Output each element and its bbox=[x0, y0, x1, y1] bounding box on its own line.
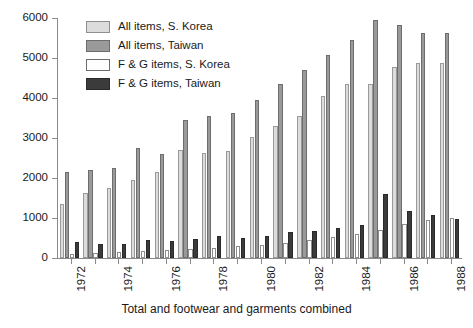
bar bbox=[136, 148, 140, 258]
bar bbox=[455, 219, 459, 258]
y-axis-tick-label: 5000 bbox=[0, 52, 48, 64]
bar bbox=[368, 84, 372, 258]
legend-label: All items, S. Korea bbox=[118, 21, 213, 33]
legend-item: F & G items, Taiwan bbox=[86, 76, 230, 92]
bar bbox=[88, 170, 92, 258]
bar bbox=[112, 168, 116, 258]
x-axis-tick-label: 1972 bbox=[76, 266, 88, 292]
bar bbox=[336, 228, 340, 258]
x-axis-tick bbox=[380, 258, 381, 264]
x-axis-title: Total and footwear and garments combined bbox=[0, 302, 473, 316]
x-axis-tick bbox=[142, 258, 143, 264]
legend-item: All items, Taiwan bbox=[86, 38, 230, 54]
bar bbox=[260, 245, 264, 258]
bar bbox=[283, 243, 287, 258]
bar-group bbox=[368, 18, 392, 258]
bar bbox=[193, 239, 197, 258]
x-axis-tick bbox=[261, 258, 262, 264]
y-axis-tick-label: 4000 bbox=[0, 92, 48, 104]
legend-item: All items, S. Korea bbox=[86, 19, 230, 35]
bar bbox=[155, 172, 159, 258]
bar bbox=[273, 126, 277, 258]
bar bbox=[250, 137, 254, 258]
bar bbox=[392, 67, 396, 258]
bar-group bbox=[416, 18, 440, 258]
bar bbox=[378, 230, 382, 258]
bar-group bbox=[345, 18, 369, 258]
bar bbox=[407, 211, 411, 258]
bar-chart: 0100020003000400050006000 19721974197619… bbox=[0, 0, 473, 328]
bar bbox=[160, 154, 164, 258]
bar-group bbox=[440, 18, 464, 258]
legend-label: All items, Taiwan bbox=[118, 40, 203, 52]
x-axis-tick-label: 1980 bbox=[266, 266, 278, 292]
bar bbox=[383, 194, 387, 258]
bar bbox=[312, 231, 316, 258]
x-axis-tick-label: 1988 bbox=[456, 266, 468, 292]
legend-swatch-icon bbox=[86, 78, 110, 90]
bar bbox=[183, 120, 187, 258]
bar bbox=[397, 25, 401, 258]
x-axis-tick bbox=[309, 258, 310, 264]
x-axis-tick-label: 1976 bbox=[171, 266, 183, 292]
bar bbox=[440, 63, 444, 258]
bar-group bbox=[297, 18, 321, 258]
bar-group bbox=[250, 18, 274, 258]
x-axis-tick bbox=[118, 258, 119, 264]
bar bbox=[202, 153, 206, 258]
bar bbox=[345, 84, 349, 258]
x-axis-tick-label: 1974 bbox=[123, 266, 135, 292]
x-axis-tick bbox=[285, 258, 286, 264]
bar bbox=[83, 193, 87, 258]
bar bbox=[426, 220, 430, 258]
bar bbox=[212, 248, 216, 258]
bar bbox=[231, 113, 235, 258]
bar bbox=[122, 244, 126, 258]
x-axis-tick bbox=[166, 258, 167, 264]
x-axis-tick bbox=[451, 258, 452, 264]
x-axis-tick-label: 1984 bbox=[361, 266, 373, 292]
bar bbox=[75, 242, 79, 258]
legend-swatch-icon bbox=[86, 21, 110, 33]
bar bbox=[65, 172, 69, 258]
bar bbox=[241, 238, 245, 258]
bar bbox=[297, 116, 301, 258]
bar bbox=[450, 218, 454, 258]
bar bbox=[416, 63, 420, 258]
bar bbox=[188, 249, 192, 258]
bar bbox=[265, 236, 269, 258]
bar bbox=[146, 240, 150, 258]
bar bbox=[217, 236, 221, 258]
bar bbox=[255, 100, 259, 258]
bar-group bbox=[321, 18, 345, 258]
bar-group bbox=[60, 18, 84, 258]
legend-label: F & G items, Taiwan bbox=[118, 78, 221, 90]
x-axis-tick bbox=[404, 258, 405, 264]
x-axis-tick bbox=[237, 258, 238, 264]
x-axis-tick-label: 1978 bbox=[218, 266, 230, 292]
y-axis-tick-label: 2000 bbox=[0, 172, 48, 184]
bar bbox=[207, 116, 211, 258]
y-axis-tick-label: 3000 bbox=[0, 132, 48, 144]
bar bbox=[350, 40, 354, 258]
bar bbox=[98, 244, 102, 258]
y-axis-tick-label: 6000 bbox=[0, 12, 48, 24]
x-axis-tick bbox=[95, 258, 96, 264]
bar-group bbox=[273, 18, 297, 258]
y-axis-tick-label: 1000 bbox=[0, 212, 48, 224]
x-axis-tick bbox=[213, 258, 214, 264]
legend-swatch-icon bbox=[86, 59, 110, 71]
bar bbox=[331, 237, 335, 258]
bar bbox=[288, 232, 292, 258]
bar bbox=[226, 151, 230, 258]
bar bbox=[445, 33, 449, 258]
bar bbox=[355, 234, 359, 258]
bar bbox=[178, 150, 182, 258]
bar bbox=[360, 225, 364, 258]
x-axis-tick bbox=[356, 258, 357, 264]
bar bbox=[278, 84, 282, 258]
bar bbox=[60, 204, 64, 258]
legend-item: F & G items, S. Korea bbox=[86, 57, 230, 73]
bar-group bbox=[392, 18, 416, 258]
bar bbox=[236, 246, 240, 258]
